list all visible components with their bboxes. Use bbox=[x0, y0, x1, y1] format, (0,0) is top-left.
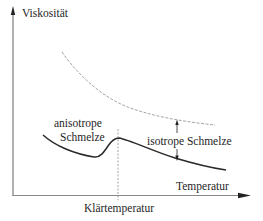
anisotropic-melt-label-line2: Schmelze bbox=[60, 131, 105, 144]
anisotropic-melt-label-line1: anisotrope bbox=[54, 117, 102, 130]
y-axis-arrowhead-icon bbox=[11, 6, 15, 15]
isotropic-melt-label: isotrope Schmelze bbox=[147, 135, 232, 148]
gap-arrow-up-icon bbox=[175, 120, 178, 126]
y-axis-label: Viskosität bbox=[22, 7, 68, 20]
clearing-temperature-label: Klärtemperatur bbox=[83, 202, 155, 215]
x-axis-label: Temperatur bbox=[176, 180, 229, 193]
upper-dashed-curve bbox=[62, 52, 215, 125]
x-axis-arrowhead-icon bbox=[238, 193, 251, 198]
